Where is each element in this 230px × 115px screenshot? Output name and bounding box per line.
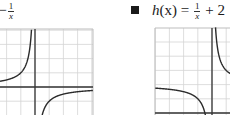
function-graphs [0,0,230,115]
function-curve-h [216,27,230,73]
function-curve-g [0,30,31,82]
